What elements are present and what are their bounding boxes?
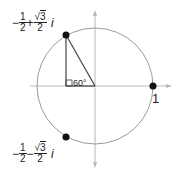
real-fraction: 12	[19, 12, 27, 33]
sign: −	[12, 147, 19, 161]
operator: +	[27, 16, 34, 30]
right-angle-marker	[66, 80, 72, 86]
operator: −	[27, 147, 34, 161]
angle-label: 60°	[73, 78, 87, 88]
real-fraction: 12	[19, 143, 27, 164]
point-top-label: −12+√32 i	[12, 12, 54, 33]
point-one	[150, 83, 157, 90]
imaginary-unit: i	[51, 16, 54, 30]
real-axis-arrow	[166, 84, 172, 88]
point-bottom-root	[63, 134, 70, 141]
imaginary-axis-arrow-down	[93, 162, 97, 168]
point-one-label: 1	[152, 91, 159, 106]
point-top-root	[63, 32, 70, 39]
sign: −	[12, 16, 19, 30]
point-bottom-label: −12−√32 i	[12, 143, 54, 164]
imag-fraction: √32	[34, 12, 47, 33]
imaginary-unit: i	[51, 147, 54, 161]
imag-fraction: √32	[34, 143, 47, 164]
imaginary-axis-arrow-up	[93, 10, 97, 16]
